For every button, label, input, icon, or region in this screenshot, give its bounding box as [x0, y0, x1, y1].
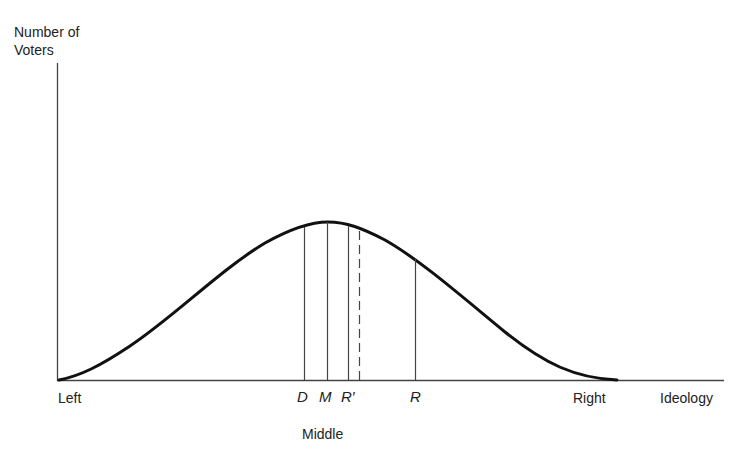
- x-axis-label: Ideology: [660, 390, 713, 406]
- middle-label: Middle: [302, 426, 343, 442]
- y-axis-label-line1: Number of: [14, 24, 79, 40]
- y-axis-label-line2: Voters: [14, 42, 54, 58]
- marker-label-d: D: [297, 389, 308, 405]
- marker-label-m: M: [319, 389, 332, 405]
- x-tick-right: Right: [573, 390, 606, 406]
- x-tick-left: Left: [58, 390, 81, 406]
- marker-label-r: R: [410, 389, 421, 405]
- voter-distribution-diagram: [0, 0, 752, 460]
- voter-distribution-curve: [59, 222, 617, 380]
- marker-label-r-prime: R′: [341, 389, 355, 405]
